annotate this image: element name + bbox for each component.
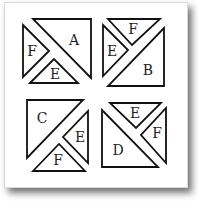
quadrant-top-left: A F E: [23, 19, 91, 83]
piece-label: D: [112, 142, 123, 158]
piece-label: E: [107, 43, 117, 59]
puzzle-diagram: A F E F E B C E: [0, 0, 198, 202]
piece-label: B: [143, 62, 153, 78]
piece-label: C: [37, 110, 48, 126]
piece-label: F: [128, 21, 138, 37]
piece-label: F: [152, 125, 162, 141]
piece-label: F: [53, 152, 63, 168]
quadrant-bottom-left: C E F: [27, 100, 88, 171]
quadrant-bottom-right: E F D: [102, 103, 166, 167]
piece-label: A: [68, 32, 80, 48]
piece-label: F: [27, 43, 37, 59]
piece-label: E: [75, 129, 85, 145]
piece-label: E: [130, 105, 140, 121]
quadrant-top-right: F E B: [103, 19, 164, 86]
piece-label: E: [50, 66, 60, 82]
